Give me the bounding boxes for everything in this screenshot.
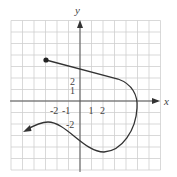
x-tick-label: 1: [89, 105, 94, 116]
curve-end-arrow-icon: [23, 125, 32, 132]
y-axis-label: y: [74, 4, 80, 16]
x-tick-label: 2: [100, 105, 105, 116]
x-axis-arrow-icon: [152, 98, 160, 104]
grid: [11, 21, 161, 171]
y-tick-label: -2: [66, 119, 74, 130]
function-graph: x y -2 -1 1 2 2 1 -2: [0, 0, 177, 177]
y-axis-arrow-icon: [77, 20, 83, 28]
x-axis-label: x: [163, 95, 169, 107]
start-point-dot: [43, 57, 48, 62]
x-tick-label: -1: [62, 105, 70, 116]
y-tick-label: 1: [70, 85, 75, 96]
x-tick-label: -2: [50, 105, 58, 116]
function-curve: [26, 60, 137, 152]
